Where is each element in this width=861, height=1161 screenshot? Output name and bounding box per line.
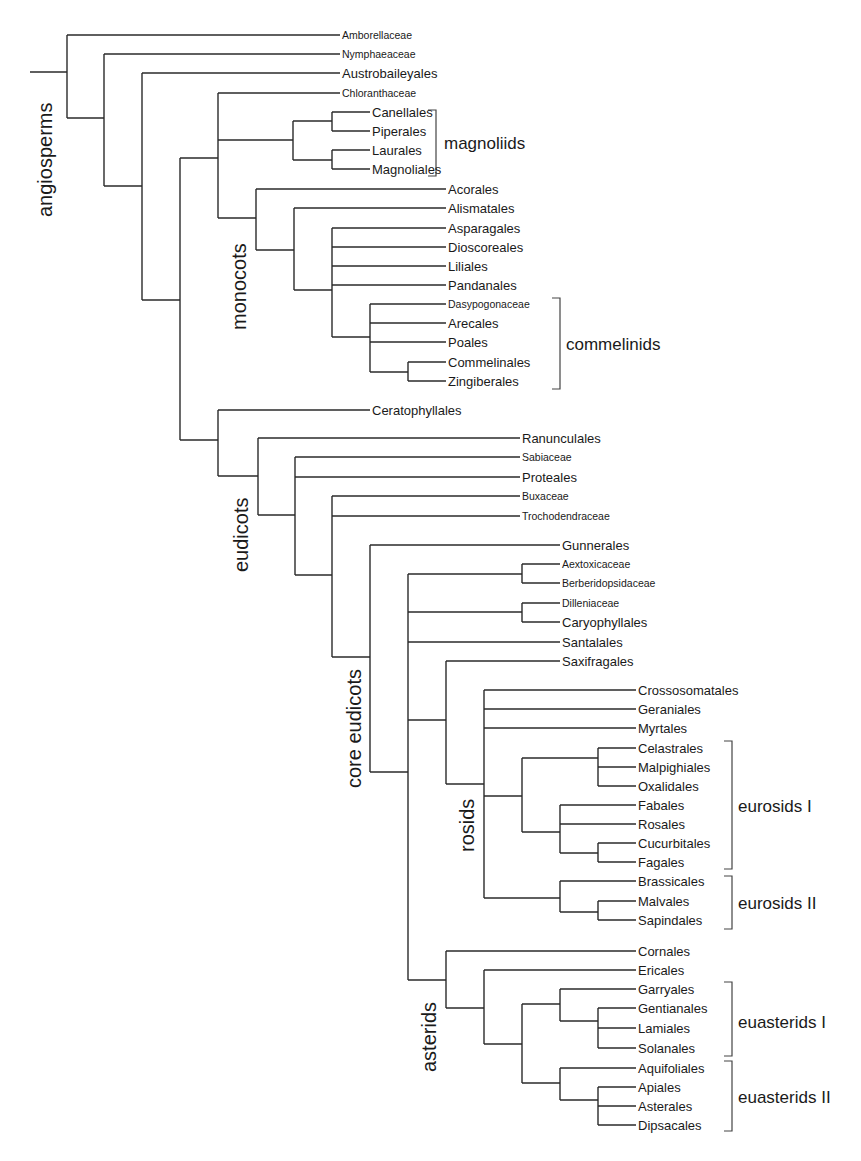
taxon-label: Alismatales (448, 201, 515, 216)
taxon-label: Laurales (372, 143, 422, 158)
core-eudicots-label: core eudicots (343, 669, 365, 788)
taxon-label: Sabiaceae (522, 451, 572, 463)
taxon-label: Gunnerales (562, 538, 630, 553)
taxon-label: Berberidopsidaceae (562, 577, 656, 589)
taxon-label: Zingiberales (448, 374, 519, 389)
eurosids-2-label: eurosids II (738, 894, 816, 913)
taxon-label: Apiales (638, 1080, 681, 1095)
taxon-label: Ceratophyllales (372, 403, 462, 418)
taxon-label: Amborellaceae (342, 29, 412, 41)
taxon-label: Ericales (638, 963, 685, 978)
eudicots-label: eudicots (230, 498, 252, 573)
taxon-label: Sapindales (638, 913, 703, 928)
taxon-label: Crossosomatales (638, 683, 739, 698)
taxon-label: Proteales (522, 470, 577, 485)
taxon-label: Buxaceae (522, 490, 569, 502)
taxon-label: Acorales (448, 182, 499, 197)
taxon-label: Dioscoreales (448, 240, 524, 255)
taxon-label: Lamiales (638, 1021, 691, 1036)
taxon-label: Celastrales (638, 741, 704, 756)
taxon-label: Aextoxicaceae (562, 558, 630, 570)
branches (30, 35, 636, 1125)
monocots-label: monocots (228, 243, 250, 330)
taxon-label: Asterales (638, 1099, 693, 1114)
taxon-label: Rosales (638, 817, 685, 832)
taxon-label: Ranunculales (522, 431, 601, 446)
taxon-label: Austrobaileyales (342, 66, 438, 81)
taxon-label: Arecales (448, 316, 499, 331)
taxon-label: Pandanales (448, 278, 517, 293)
taxon-label: Cucurbitales (638, 836, 711, 851)
taxon-label: Solanales (638, 1041, 696, 1056)
taxon-label: Brassicales (638, 874, 705, 889)
taxon-label: Dilleniaceae (562, 597, 619, 609)
taxon-label: Trochodendraceae (522, 510, 610, 522)
taxon-label: Fabales (638, 798, 685, 813)
taxon-label: Magnoliales (372, 162, 442, 177)
taxon-label: Santalales (562, 635, 623, 650)
taxon-label: Liliales (448, 259, 488, 274)
rosids-label: rosids (456, 799, 478, 852)
taxon-label: Cornales (638, 944, 691, 959)
taxon-label: Aquifoliales (638, 1061, 705, 1076)
taxon-label: Nymphaeaceae (342, 48, 416, 60)
magnoliids-label: magnoliids (444, 134, 525, 153)
taxon-label: Malpighiales (638, 760, 711, 775)
cladogram: Amborellaceae Nymphaeaceae Austrobaileya… (0, 0, 861, 1161)
taxon-label: Fagales (638, 855, 685, 870)
taxon-label: Gentianales (638, 1001, 708, 1016)
taxon-label: Piperales (372, 124, 427, 139)
taxon-label: Caryophyllales (562, 615, 648, 630)
taxon-label: Saxifragales (562, 654, 634, 669)
taxon-label: Dasypogonaceae (448, 298, 530, 310)
euasterids-1-label: euasterids I (738, 1013, 826, 1032)
taxon-label: Malvales (638, 894, 690, 909)
euasterids-2-label: euasterids II (738, 1088, 831, 1107)
angiosperms-label: angiosperms (34, 102, 56, 217)
asterids-label: asterids (418, 1002, 440, 1072)
taxon-label: Canellales (372, 105, 433, 120)
tip-labels: Amborellaceae Nymphaeaceae Austrobaileya… (342, 29, 739, 1133)
taxon-label: Oxalidales (638, 779, 699, 794)
taxon-label: Geraniales (638, 702, 701, 717)
commelinids-label: commelinids (566, 335, 660, 354)
taxon-label: Poales (448, 335, 488, 350)
taxon-label: Chloranthaceae (342, 87, 416, 99)
taxon-label: Dipsacales (638, 1118, 702, 1133)
taxon-label: Myrtales (638, 721, 688, 736)
taxon-label: Garryales (638, 982, 695, 997)
eurosids-1-label: eurosids I (738, 797, 812, 816)
taxon-label: Commelinales (448, 355, 531, 370)
taxon-label: Asparagales (448, 221, 521, 236)
